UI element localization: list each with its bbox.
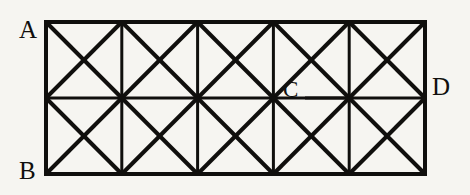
interior-grid-group <box>46 22 425 174</box>
vertex-label-b: B <box>19 158 36 183</box>
vertex-label-a: A <box>19 17 37 42</box>
vertex-label-c: C <box>283 78 298 101</box>
vertex-label-d: D <box>432 74 450 99</box>
grid-diagram-canvas <box>0 0 470 195</box>
geometry-figure: A B C D <box>0 0 470 195</box>
